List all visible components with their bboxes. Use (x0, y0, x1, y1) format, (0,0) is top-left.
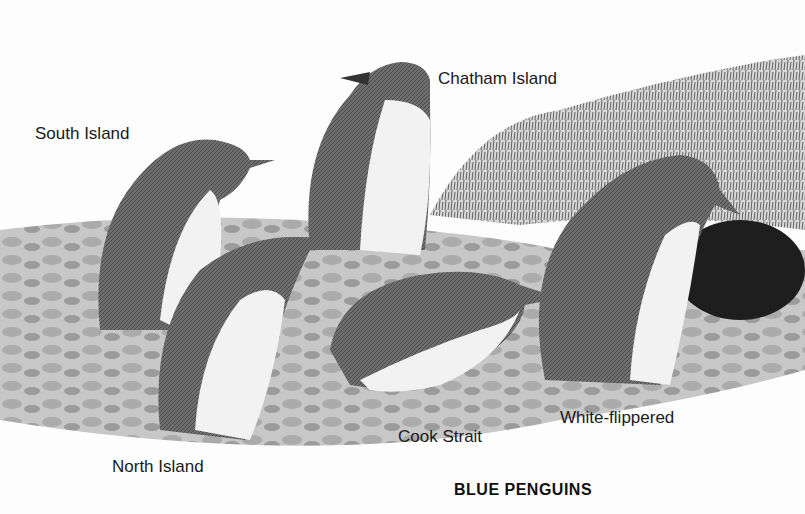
label-chatham-island: Chatham Island (438, 69, 557, 89)
penguin-chatham-island (308, 62, 430, 255)
illustration-title: BLUE PENGUINS (454, 481, 592, 499)
label-north-island: North Island (112, 457, 204, 477)
label-south-island: South Island (35, 124, 130, 144)
label-cook-strait: Cook Strait (398, 427, 482, 447)
label-white-flippered: White-flippered (560, 408, 674, 428)
